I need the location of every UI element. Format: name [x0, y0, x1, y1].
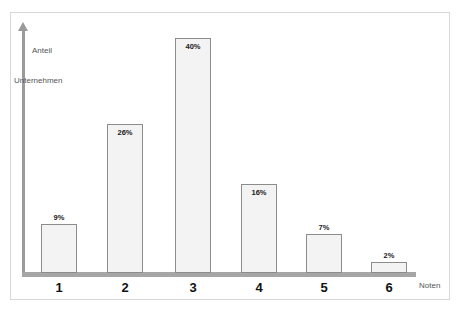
bar-chart-figure: Anteil Unternehmen Noten 9%26%40%16%7%2%… [0, 0, 460, 315]
y-axis-title-line1: Anteil [14, 46, 62, 56]
x-axis-title: Noten [419, 281, 440, 291]
x-tick-label-2: 2 [107, 280, 143, 295]
bar-value-label-1: 9% [41, 213, 77, 222]
x-tick-label-3: 3 [175, 280, 211, 295]
bar-5 [306, 234, 342, 273]
y-axis-title-line2: Unternehmen [14, 76, 62, 86]
x-axis-line [22, 272, 416, 277]
bar-4 [241, 184, 277, 273]
y-axis-title: Anteil Unternehmen [14, 26, 62, 106]
chart-plot-area: Anteil Unternehmen Noten 9%26%40%16%7%2%… [0, 0, 460, 315]
x-tick-label-4: 4 [241, 280, 277, 295]
bar-value-label-6: 2% [371, 251, 407, 260]
bar-value-label-5: 7% [306, 223, 342, 232]
bar-value-label-3: 40% [175, 42, 211, 51]
x-tick-label-6: 6 [371, 280, 407, 295]
bar-value-label-2: 26% [107, 128, 143, 137]
bar-1 [41, 224, 77, 273]
bar-3 [175, 38, 211, 273]
x-tick-label-5: 5 [306, 280, 342, 295]
x-tick-label-1: 1 [41, 280, 77, 295]
bar-2 [107, 124, 143, 273]
bar-value-label-4: 16% [241, 188, 277, 197]
bar-6 [371, 262, 407, 273]
